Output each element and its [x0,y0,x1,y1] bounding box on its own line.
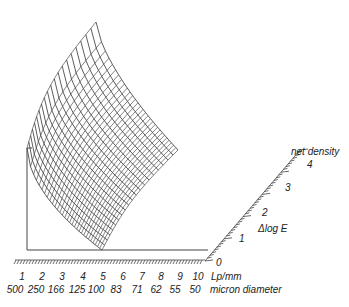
z-axis-label-net-density: net density [291,147,339,157]
x-tick-lp: 1 [12,272,32,282]
x-tick-micron: 50 [183,285,207,295]
x-axis-label-lp: Lp/mm [211,272,242,282]
z-tick-4: 4 [307,160,313,170]
y-axis-label-delta-log-e: Δlog E [258,224,288,234]
x-tick-lp: 8 [151,272,171,282]
x-tick-lp: 9 [170,272,190,282]
x-axis-ruler [14,260,205,264]
y-tick-3: 3 [285,183,291,193]
x-tick-lp: 5 [93,272,113,282]
y-tick-0: 0 [216,258,222,268]
y-tick-2: 2 [262,208,268,218]
x-axis-label-micron: micron diameter [210,285,282,295]
delta-log-e-axis [205,149,308,261]
x-tick-lp: 2 [32,272,52,282]
wireframe-surface [27,22,178,250]
x-tick-lp: 7 [132,272,152,282]
x-tick-lp: 3 [52,272,72,282]
x-tick-lp: 4 [73,272,93,282]
x-tick-lp: 10 [188,272,208,282]
x-tick-lp: 6 [113,272,133,282]
y-tick-1: 1 [239,234,245,244]
